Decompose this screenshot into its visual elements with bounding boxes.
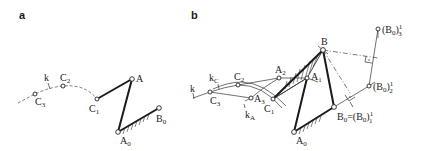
joint-a3	[249, 96, 253, 100]
joint-a	[130, 77, 135, 82]
panel-a: a k C3 C2 C1 A A0 B0	[18, 9, 167, 148]
joint-a0	[292, 130, 297, 135]
joint-a0	[116, 130, 121, 135]
kinematic-diagram: a k C3 C2 C1 A A0 B0	[0, 0, 421, 151]
tick-b0-line	[350, 102, 353, 107]
label-c2: C2	[60, 72, 71, 85]
label-ka: kA	[245, 109, 255, 122]
right-angle-dot-upper	[368, 59, 369, 60]
curve-k-marker	[48, 83, 50, 89]
label-c3: C3	[210, 95, 221, 108]
joint-b0	[332, 105, 337, 110]
panel-b: b	[190, 9, 403, 148]
joint-b0	[157, 106, 162, 111]
label-a0: A0	[120, 135, 131, 148]
joint-c1	[271, 97, 275, 101]
label-a0: A0	[296, 135, 307, 148]
curve-k	[18, 86, 97, 103]
label-k: k	[190, 83, 195, 94]
label-a: A	[136, 73, 144, 84]
perp-b-upper	[323, 50, 378, 58]
joint-c3	[208, 90, 212, 94]
label-b0: B0	[156, 113, 167, 126]
label-c3: C3	[35, 96, 46, 109]
joint-b0-3	[376, 27, 380, 31]
curve-k-label: k	[44, 72, 49, 83]
right-angle-dot-lower	[349, 96, 350, 97]
right-angle-mark-lower	[345, 95, 355, 101]
joint-c1	[95, 97, 99, 101]
joint-a2	[277, 76, 281, 80]
joint-c2	[61, 84, 65, 88]
joint-b	[321, 48, 326, 53]
link-a1-a0	[294, 78, 307, 132]
label-b0-2: (B0)12	[373, 80, 394, 95]
label-a2: A2	[275, 64, 286, 77]
joint-b0-2	[367, 84, 371, 88]
ground-hatch-b	[299, 116, 321, 134]
label-c1: C1	[89, 103, 100, 116]
panel-b-label: b	[191, 9, 198, 21]
label-a1: A1	[311, 71, 322, 84]
label-b0-3: (B0)13	[382, 23, 403, 38]
label-c1: C1	[264, 103, 275, 116]
right-angle-mark-upper	[365, 56, 372, 63]
curve-ka-marker	[244, 104, 245, 108]
label-b: B	[321, 36, 328, 47]
joint-a1	[305, 76, 309, 80]
label-kc: kC	[209, 72, 219, 85]
joint-c2	[236, 83, 240, 87]
panel-a-label: a	[19, 9, 26, 21]
label-b0-eq: B0=(B0)11	[337, 110, 374, 125]
